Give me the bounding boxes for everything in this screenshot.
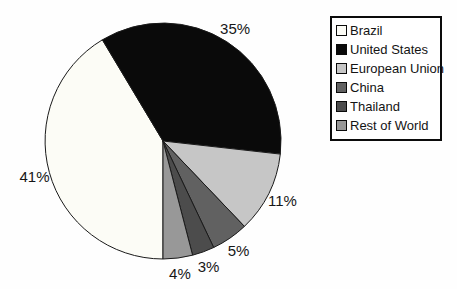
legend-item-european-union: European Union [336,59,438,78]
legend-swatch-icon [336,82,347,93]
pie-percent-label-thailand: 3% [198,258,220,275]
pie-percent-label-united-states: 35% [220,20,250,37]
pie-percent-label-china: 5% [228,242,250,259]
legend-swatch-icon [336,63,347,74]
legend-item-rest-of-world: Rest of World [336,116,438,135]
legend-swatch-icon [336,25,347,36]
legend-swatch-icon [336,101,347,112]
legend-label: China [350,81,384,94]
pie-chart-figure: 41%35%11%5%3%4% BrazilUnited StatesEurop… [0,0,457,289]
legend-swatch-icon [336,120,347,131]
pie-percent-label-rest-of-world: 4% [169,265,191,282]
legend-swatch-icon [336,44,347,55]
legend-item-united-states: United States [336,40,438,59]
chart-legend: BrazilUnited StatesEuropean UnionChinaTh… [330,16,442,141]
legend-label: European Union [350,62,444,75]
pie-percent-label-european-union: 11% [268,192,297,209]
legend-label: Rest of World [350,119,429,132]
legend-label: Brazil [350,24,383,37]
legend-item-brazil: Brazil [336,21,438,40]
legend-item-thailand: Thailand [336,97,438,116]
legend-item-china: China [336,78,438,97]
legend-label: Thailand [350,100,400,113]
legend-label: United States [350,43,428,56]
pie-percent-label-brazil: 41% [19,168,49,185]
